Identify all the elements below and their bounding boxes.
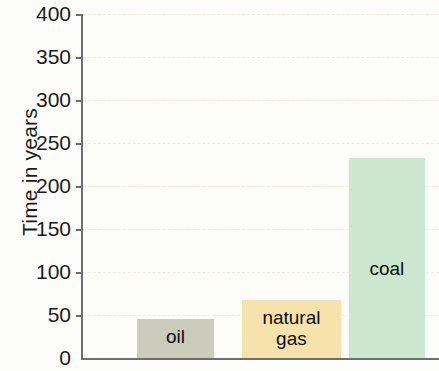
bar-coal: coal (349, 158, 426, 358)
y-tick-mark (76, 229, 83, 231)
y-tick-mark (76, 143, 83, 145)
y-tick-label: 0 (59, 346, 71, 370)
gridline (83, 100, 439, 101)
y-tick-label: 400 (36, 2, 71, 26)
y-tick-label: 150 (36, 217, 71, 241)
gridline (83, 143, 439, 144)
y-tick-mark (76, 14, 83, 16)
y-tick-label: 100 (36, 260, 71, 284)
y-tick-mark (76, 57, 83, 59)
y-tick-label: 350 (36, 45, 71, 69)
y-tick-label: 300 (36, 88, 71, 112)
bar-oil: oil (137, 319, 215, 358)
bar-chart: Time in years 400350300250200150100500 o… (0, 0, 439, 371)
plot-area: 400350300250200150100500 oilnatural gasc… (81, 14, 439, 360)
y-tick-mark (76, 100, 83, 102)
y-tick-mark (76, 315, 83, 317)
y-tick-label: 50 (48, 303, 71, 327)
y-tick-mark (76, 272, 83, 274)
y-tick-label: 250 (36, 131, 71, 155)
gridline (83, 14, 439, 15)
bar-label-coal: coal (349, 259, 426, 280)
y-tick-mark (76, 186, 83, 188)
bar-natural-gas: natural gas (242, 300, 341, 358)
gridline (83, 57, 439, 58)
bar-label-oil: oil (137, 327, 215, 348)
bar-label-natural-gas: natural gas (242, 308, 341, 350)
y-tick-label: 200 (36, 174, 71, 198)
